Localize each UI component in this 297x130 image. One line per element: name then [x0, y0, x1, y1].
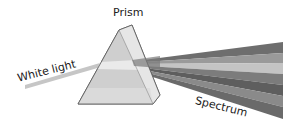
- prism-label: Prism: [113, 6, 143, 19]
- prism-diagram: Prism White light Spectrum: [0, 0, 297, 130]
